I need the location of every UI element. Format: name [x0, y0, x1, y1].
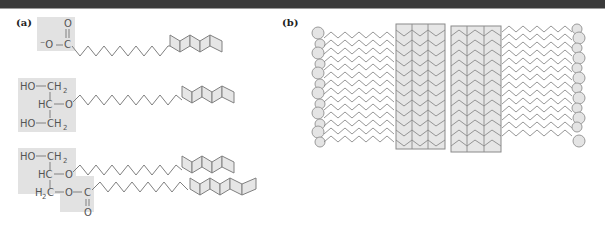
svg-text:2: 2	[42, 193, 46, 201]
molecule-1: O ⁻O C	[37, 17, 222, 56]
svg-text:HO: HO	[20, 118, 36, 129]
svg-text:2: 2	[63, 87, 67, 95]
carbonyl-o: O	[64, 18, 72, 29]
left-headgroups	[312, 27, 325, 147]
svg-text:2: 2	[63, 157, 67, 165]
svg-text:C: C	[84, 187, 91, 198]
right-headgroups	[572, 24, 585, 147]
anion-o: ⁻O	[40, 39, 53, 50]
svg-text:O: O	[84, 207, 92, 218]
svg-text:CH: CH	[47, 151, 62, 162]
svg-text:C: C	[47, 187, 54, 198]
svg-text:O: O	[65, 187, 73, 198]
svg-text:O: O	[65, 169, 73, 180]
svg-text:HO: HO	[20, 81, 36, 92]
svg-text:CH: CH	[47, 81, 62, 92]
svg-text:CH: CH	[47, 118, 62, 129]
carboxyl-c: C	[64, 39, 71, 50]
bilayer	[312, 24, 585, 152]
molecule-3: HO CH 2 HC O H 2 C O C O	[18, 148, 256, 218]
svg-text:O: O	[65, 99, 73, 110]
diagram-canvas: O ⁻O C HO CH 2 HC O HO CH 2	[0, 0, 605, 229]
svg-text:HC: HC	[38, 169, 53, 180]
molecule-2: HO CH 2 HC O HO CH 2	[18, 78, 234, 132]
svg-text:HO: HO	[20, 151, 36, 162]
svg-text:2: 2	[63, 124, 67, 132]
svg-text:HC: HC	[38, 99, 53, 110]
